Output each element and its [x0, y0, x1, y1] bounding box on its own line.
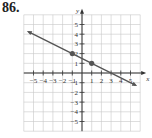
- y-tick-label: 3: [75, 40, 79, 48]
- x-tick-label: 1: [90, 77, 94, 85]
- y-tick-label: 4: [75, 31, 79, 39]
- data-point: [89, 61, 94, 66]
- coordinate-plane: −5−4−3−2−11234554321−1−2−3−4−5xy: [0, 0, 152, 138]
- y-tick-label: −1: [71, 79, 79, 87]
- y-axis-arrow-icon: [80, 9, 84, 14]
- y-axis-label: y: [75, 7, 80, 15]
- x-tick-label: −2: [59, 77, 67, 85]
- x-tick-label: 3: [109, 77, 113, 85]
- x-tick-label: −3: [49, 77, 57, 85]
- y-tick-label: −4: [71, 108, 79, 116]
- x-tick-label: −5: [30, 77, 38, 85]
- x-axis-label: x: [145, 75, 150, 83]
- y-tick-label: −3: [71, 99, 79, 107]
- y-tick-label: 5: [75, 21, 79, 29]
- y-tick-label: −5: [71, 118, 79, 126]
- x-tick-label: −4: [39, 77, 47, 85]
- y-tick-label: −2: [71, 89, 79, 97]
- x-tick-label: 2: [100, 77, 104, 85]
- y-tick-label: 1: [75, 60, 79, 68]
- data-point: [70, 51, 75, 56]
